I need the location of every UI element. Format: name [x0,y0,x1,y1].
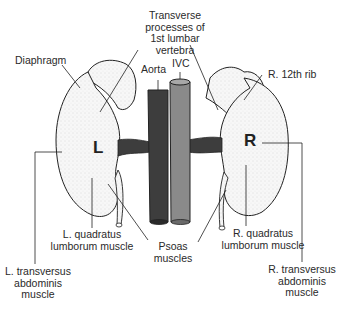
left-renal-vessels [118,139,150,156]
aorta-vessel [148,90,168,222]
left-kidney-letter: L [93,138,103,158]
label-l-transversus-abdominis: L. transversus abdominis muscle [5,266,71,301]
label-r-transversus-abdominis: R. transversus abdominis muscle [268,264,336,299]
label-r-quadratus-lumborum: R. quadratus lumborum muscle [218,228,308,251]
label-psoas-muscles: Psoas muscles [148,241,198,264]
label-diaphragm: Diaphragm [15,55,66,67]
kidney-relations-diagram: Transverse processes of 1st lumbar verte… [0,0,339,310]
right-renal-vessels [188,137,222,153]
label-ivc: IVC [172,58,190,70]
label-r-12th-rib: R. 12th rib [268,69,316,81]
label-l-quadratus-lumborum: L. quadratus lumborum muscle [47,229,137,252]
label-transverse-processes: Transverse processes of 1st lumbar verte… [140,10,210,56]
label-aorta: Aorta [141,64,166,76]
ivc-vessel [170,82,190,222]
right-kidney-letter: R [244,131,256,151]
